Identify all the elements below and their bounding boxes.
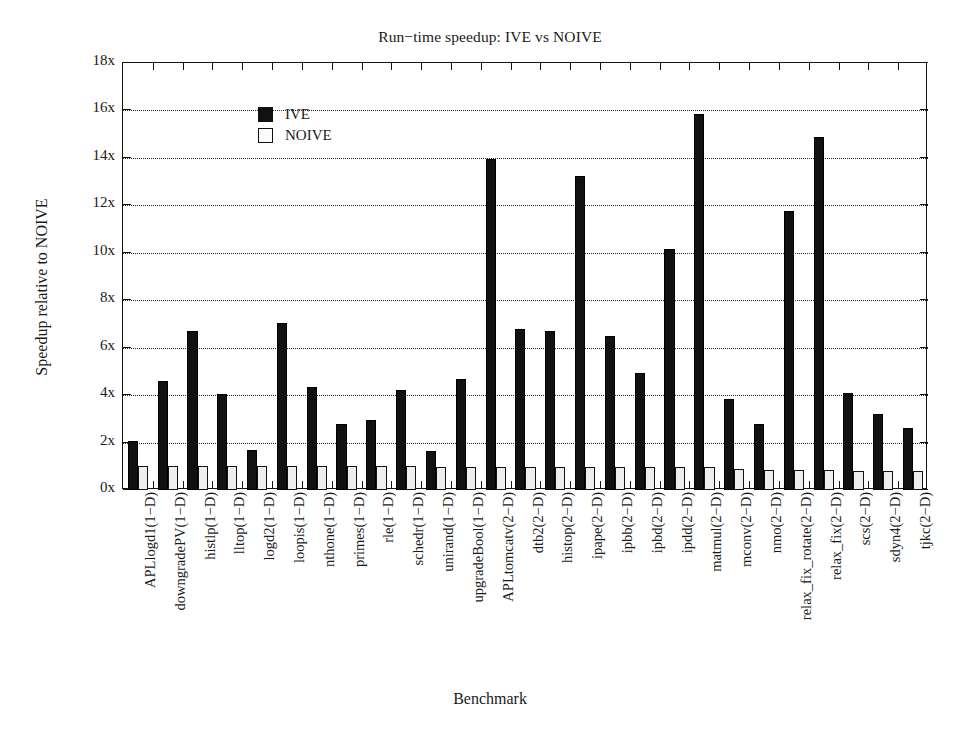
x-tick-label: sdyn4(2−D) [887,492,904,562]
x-tick-label: loopis(1−D) [291,492,308,563]
x-tick-label: schedr(1−D) [410,492,427,565]
bar-noive [883,471,893,490]
bar-ive [247,450,257,490]
y-tick-label: 6x [71,337,115,354]
bar-group [421,63,451,490]
x-tick-label: unirand(1−D) [440,492,457,572]
bar-group [749,63,779,490]
bar-noive [347,466,357,490]
bar-noive [198,466,208,490]
bar-group [332,63,362,490]
bar-group [153,63,183,490]
bar-group [451,63,481,490]
bar-noive [734,469,744,490]
bar-group [630,63,660,490]
bar-noive [913,471,923,490]
legend-swatch-noive [258,128,273,143]
x-tick-label: nmo(2−D) [768,492,785,553]
bar-noive [317,466,327,490]
y-tick-label: 0x [71,479,115,496]
legend-label-ive: IVE [285,106,310,123]
bar-ive [545,331,555,490]
x-tick-label: relax_fix_rotate(2−D) [798,492,815,620]
bar-group [511,63,541,490]
x-tick-label: relax_fix(2−D) [828,492,845,580]
bar-ive [486,159,496,490]
x-tick-label: rle(1−D) [380,492,397,543]
legend-item-noive: NOIVE [258,125,332,146]
bar-group [868,63,898,490]
x-axis-label: Benchmark [0,690,980,708]
x-tick-label: mconv(2−D) [738,492,755,567]
bar-ive [843,393,853,490]
x-tick-label: primes(1−D) [351,492,368,567]
legend-swatch-ive [258,107,273,122]
bar-group [809,63,839,490]
bar-group [540,63,570,490]
x-tick-label: histlp(1−D) [202,492,219,560]
y-tick-label: 18x [71,52,115,69]
bar-ive [784,211,794,490]
x-tick-label: ipdd(2−D) [679,492,696,553]
x-tick-label: logd2(1−D) [261,492,278,561]
x-tick-label: tjkc(2−D) [917,492,934,549]
bar-noive [466,467,476,490]
x-tick-label: scs(2−D) [857,492,874,545]
x-tick-label: ipbb(2−D) [619,492,636,553]
bar-ive [366,420,376,490]
y-tick-label: 14x [71,147,115,164]
bar-group [898,63,928,490]
bar-noive [615,467,625,490]
x-tick-label: ipape(2−D) [589,492,606,559]
bar-noive [704,467,714,490]
x-tick-label: upgradeBool(1−D) [470,492,487,602]
bar-noive [764,470,774,490]
bar-noive [585,467,595,490]
plot-area: 0x2x4x6x8x10x12x14x16x18x [122,62,927,489]
x-tick-label: lltop(1−D) [231,492,248,554]
bar-group [183,63,213,490]
chart-figure: Run−time speedup: IVE vs NOIVE Speedup r… [0,0,980,735]
bar-ive [605,336,615,490]
bar-noive [525,467,535,490]
bar-noive [287,466,297,490]
bar-group [600,63,630,490]
bar-ive [158,381,168,490]
bar-noive [555,467,565,490]
y-axis-label: Speedup relative to NOIVE [33,127,51,447]
bar-group [123,63,153,490]
legend-item-ive: IVE [258,104,332,125]
bar-ive [187,331,197,490]
bar-ive [664,249,674,490]
x-axis-tick-labels: APLlogd1(1−D)downgradePV(1−D)histlp(1−D)… [122,492,927,682]
bar-noive [406,466,416,490]
bar-group [362,63,392,490]
bar-group [570,63,600,490]
bar-ive [396,390,406,490]
chart-title: Run−time speedup: IVE vs NOIVE [0,28,980,46]
bar-ive [814,137,824,490]
bar-ive [873,414,883,490]
bar-group [481,63,511,490]
chart-legend: IVE NOIVE [258,104,332,146]
bar-ive [515,329,525,490]
x-tick-label: histop(2−D) [559,492,576,563]
bar-noive [168,466,178,490]
bar-noive [853,471,863,490]
x-tick-label: matmul(2−D) [708,492,725,572]
bar-group [779,63,809,490]
bar-ive [217,394,227,490]
x-tick-label: nthone(1−D) [321,492,338,567]
x-tick-label: downgradePV(1−D) [172,492,189,611]
bar-noive [138,466,148,490]
bar-series-container [123,63,928,490]
y-tick-label: 12x [71,194,115,211]
bar-noive [496,467,506,490]
bar-ive [456,379,466,490]
bar-ive [575,176,585,490]
bar-group [719,63,749,490]
x-tick-label: dtb2(2−D) [530,492,547,553]
bar-noive [645,467,655,490]
bar-ive [694,114,704,490]
bar-group [839,63,869,490]
